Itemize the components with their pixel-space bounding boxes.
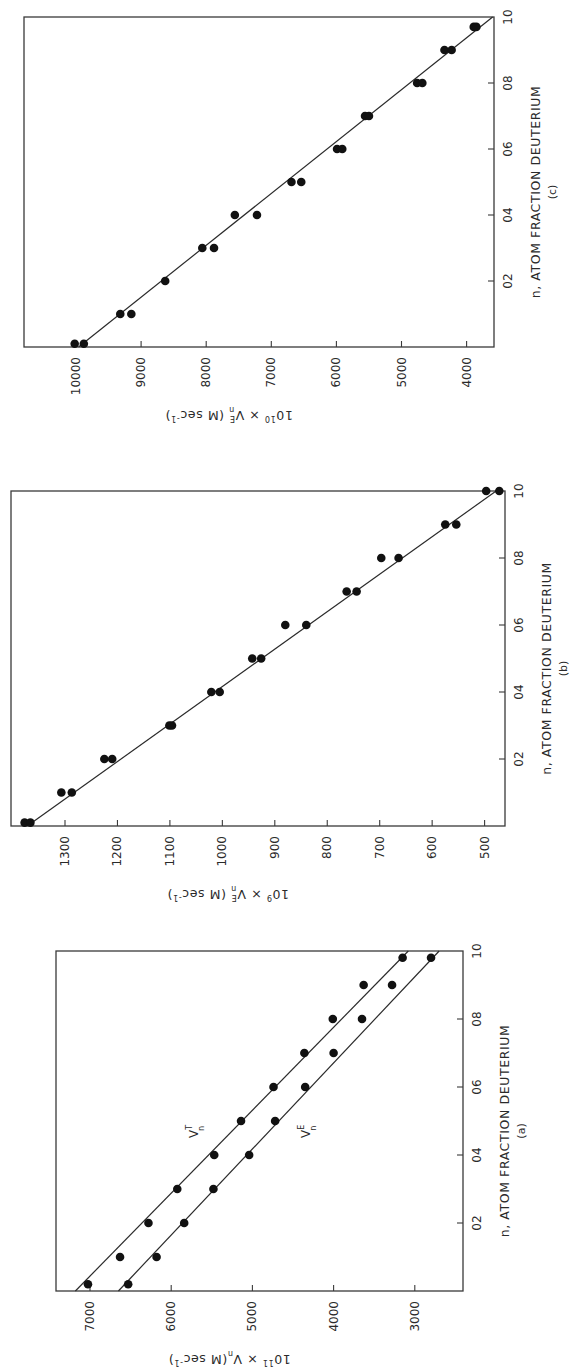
data-point xyxy=(80,339,89,348)
value-axis-label: 1011 × Vn(M sec-1) xyxy=(168,1349,291,1367)
data-point xyxy=(447,46,456,55)
value-axis-tick-label: 5000 xyxy=(395,357,409,388)
data-point xyxy=(338,145,347,154)
series-label-sup: E xyxy=(297,1125,306,1130)
data-point xyxy=(482,487,491,496)
value-axis-tick-label: 500 xyxy=(478,836,492,859)
data-point xyxy=(215,688,224,697)
value-axis-tick-label: 6000 xyxy=(329,357,343,388)
value-axis-tick-label: 900 xyxy=(268,836,282,859)
n-axis-label: n, ATOM FRACTION DEUTERIUM xyxy=(539,562,554,775)
value-axis-label-part: 10 xyxy=(274,1352,291,1367)
data-point xyxy=(173,1185,182,1194)
n-axis-tick-label: 06 xyxy=(512,617,526,632)
value-axis-tick-label: 10000 xyxy=(69,357,83,395)
value-axis-label-part: -1 xyxy=(172,893,181,902)
series-label-sub: n xyxy=(197,1126,206,1131)
data-point xyxy=(161,277,170,286)
data-point xyxy=(358,1015,367,1024)
data-point xyxy=(26,818,35,827)
value-axis-tick-label: 600 xyxy=(425,836,439,859)
value-axis-tick-label: 9000 xyxy=(134,357,148,388)
data-point xyxy=(245,1151,254,1160)
value-axis-tick-label: 1200 xyxy=(110,836,124,867)
value-axis-label-part: (M sec xyxy=(182,887,231,902)
value-axis-label-part: (M sec xyxy=(180,408,229,423)
data-point xyxy=(144,1219,153,1228)
panel-caption: (a) xyxy=(515,1123,528,1138)
panel-caption: (b) xyxy=(557,661,570,677)
n-axis-tick-label: 04 xyxy=(501,207,515,222)
data-point xyxy=(418,79,427,88)
data-point xyxy=(210,244,219,253)
data-point xyxy=(124,1280,133,1289)
value-axis-label-part: ) xyxy=(168,1352,173,1367)
n-axis-label: n, ATOM FRACTION DEUTERIUM xyxy=(497,1025,512,1238)
data-point xyxy=(394,554,403,563)
panel-a-chart: 020406081070006000500040003000VTnVEnn, A… xyxy=(56,943,528,1367)
series-label: VEn xyxy=(297,1125,318,1138)
plot-frame xyxy=(56,951,463,1291)
series-label: VTn xyxy=(185,1125,206,1138)
value-axis-label-part: (M sec xyxy=(183,1352,227,1367)
data-point xyxy=(388,981,397,990)
figure-canvas: 020406081010000900080007000600050004000n… xyxy=(0,0,584,1367)
n-axis-label: n, ATOM FRACTION DEUTERIUM xyxy=(528,86,543,299)
n-axis-tick-label: 08 xyxy=(470,1011,484,1026)
value-axis-tick-label: 7000 xyxy=(83,1301,97,1332)
data-point xyxy=(300,1049,309,1058)
n-axis-tick-label: 10 xyxy=(512,483,526,498)
n-axis-tick-label: 10 xyxy=(501,9,515,24)
data-point xyxy=(257,654,266,663)
data-point xyxy=(452,520,461,529)
data-point xyxy=(377,554,386,563)
data-point xyxy=(68,788,77,797)
data-point xyxy=(302,621,311,630)
data-point xyxy=(231,211,240,220)
value-axis-label: 1010 × VEn (M sec-1) xyxy=(165,405,293,423)
data-point xyxy=(328,1015,337,1024)
value-axis-label-part: -1 xyxy=(171,414,180,423)
value-axis-tick-label: 8000 xyxy=(199,357,213,388)
data-point xyxy=(297,178,306,187)
data-point xyxy=(116,1253,125,1262)
data-point xyxy=(269,1083,278,1092)
data-point xyxy=(398,954,407,963)
data-point xyxy=(427,954,436,963)
data-point xyxy=(472,23,481,32)
data-point xyxy=(287,178,296,187)
data-point xyxy=(210,1151,219,1160)
value-axis-label-part: 10 xyxy=(264,414,275,423)
data-point xyxy=(365,112,374,121)
data-point xyxy=(198,244,207,253)
n-axis-tick-label: 06 xyxy=(501,141,515,156)
value-axis-label-part: 11 xyxy=(262,1358,273,1367)
value-axis-label-part: × V xyxy=(237,887,266,902)
n-axis-tick-label: 02 xyxy=(512,751,526,766)
data-point xyxy=(84,1280,93,1289)
data-point xyxy=(271,1117,280,1126)
value-axis-tick-label: 700 xyxy=(373,836,387,859)
value-axis-label-part: × V xyxy=(233,1352,262,1367)
value-axis-label: 109 × VEn (M sec-1) xyxy=(167,884,289,902)
data-point xyxy=(301,1083,310,1092)
value-axis-label-part: ) xyxy=(165,408,170,423)
value-axis-tick-label: 7000 xyxy=(264,357,278,388)
data-point xyxy=(495,487,504,496)
value-axis-tick-label: 1000 xyxy=(215,836,229,867)
data-point xyxy=(168,721,177,730)
value-axis-label-part: -1 xyxy=(174,1358,183,1367)
n-axis-tick-label: 06 xyxy=(470,1079,484,1094)
data-point xyxy=(237,1117,246,1126)
n-axis-tick-label: 04 xyxy=(512,684,526,699)
fit-line xyxy=(79,17,493,347)
data-point xyxy=(352,587,361,596)
data-point xyxy=(209,1185,218,1194)
panel-b-chart: 0204060810130012001100100090080070060050… xyxy=(11,483,570,902)
n-axis-tick-label: 10 xyxy=(470,943,484,958)
n-axis-tick-label: 02 xyxy=(470,1215,484,1230)
data-point xyxy=(127,310,136,319)
data-point xyxy=(329,1049,338,1058)
data-point xyxy=(248,654,257,663)
value-axis-label-part: ) xyxy=(167,887,172,902)
